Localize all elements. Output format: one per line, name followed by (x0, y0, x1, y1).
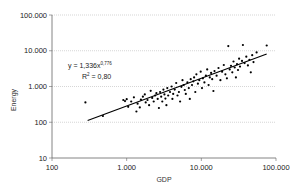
data-point (84, 101, 86, 103)
data-point (158, 107, 160, 109)
y-tick-label: 100.000 (20, 11, 47, 20)
data-point (256, 51, 258, 53)
data-point (130, 100, 132, 102)
data-point (266, 44, 268, 46)
data-point (144, 93, 146, 95)
data-point (171, 85, 173, 87)
data-point (185, 93, 187, 95)
data-point (160, 96, 162, 98)
data-point (232, 60, 234, 62)
data-point (245, 56, 247, 58)
data-point (239, 66, 241, 68)
equation-label: y = 1,336x0,776 (68, 61, 112, 70)
data-point (212, 90, 214, 92)
data-point (251, 54, 253, 56)
y-tick-labels: 101001.00010.000100.000 (20, 11, 47, 163)
x-tick-label: 100 (46, 163, 59, 172)
data-point (226, 77, 228, 79)
data-point (208, 84, 210, 86)
data-point (150, 90, 152, 92)
trendline (88, 54, 267, 121)
data-point (211, 78, 213, 80)
data-point (224, 73, 226, 75)
data-point (162, 89, 164, 91)
data-point (193, 76, 195, 78)
data-point (194, 91, 196, 93)
gridlines (49, 15, 276, 161)
x-axis-title: GDP (156, 176, 172, 183)
data-point (161, 100, 163, 102)
data-point (137, 103, 139, 105)
data-point (176, 94, 178, 96)
data-point (247, 64, 249, 66)
data-point (148, 104, 150, 106)
y-tick-label: 10.000 (24, 46, 47, 55)
data-point (252, 61, 254, 63)
data-point (171, 98, 173, 100)
scatter-chart: 101001.00010.000100.000 1001.00010.00010… (0, 0, 302, 192)
data-point (190, 78, 192, 80)
data-point (227, 45, 229, 47)
y-tick-label: 1.000 (28, 82, 47, 91)
data-point (195, 73, 197, 75)
data-point (155, 92, 157, 94)
data-point (210, 72, 212, 74)
data-point (200, 71, 202, 73)
data-point (146, 99, 148, 101)
data-point (179, 100, 181, 102)
data-point (145, 101, 147, 103)
data-point (209, 76, 211, 78)
data-point (172, 93, 174, 95)
data-point (181, 79, 183, 81)
data-point (213, 70, 215, 72)
data-point (216, 75, 218, 77)
data-point (163, 93, 165, 95)
x-tick-label: 1.000 (117, 163, 136, 172)
x-tick-label: 10.000 (190, 163, 213, 172)
data-point (238, 58, 240, 60)
data-point (219, 79, 221, 81)
data-point (166, 87, 168, 89)
data-point (188, 87, 190, 89)
data-point (197, 83, 199, 85)
data-point (142, 96, 144, 98)
data-point (203, 81, 205, 83)
data-point (191, 84, 193, 86)
data-point (157, 98, 159, 100)
r2-label: R2 = 0,80 (82, 72, 111, 80)
data-point (135, 110, 137, 112)
data-point (164, 98, 166, 100)
data-point (178, 91, 180, 93)
data-point (167, 94, 169, 96)
y-tick-label: 10 (39, 154, 47, 163)
data-point (126, 98, 128, 100)
data-point (217, 67, 219, 69)
x-tick-label: 100.000 (262, 163, 289, 172)
data-point (223, 64, 225, 66)
data-point (169, 91, 171, 93)
data-point (235, 76, 237, 78)
data-point (153, 100, 155, 102)
data-point (189, 98, 191, 100)
x-tick-labels: 1001.00010.000100.000 (46, 163, 290, 172)
data-point (201, 87, 203, 89)
data-points (84, 44, 268, 117)
data-point (133, 96, 135, 98)
data-point (124, 100, 126, 102)
data-point (231, 71, 233, 73)
data-point (184, 89, 186, 91)
data-point (165, 104, 167, 106)
data-point (250, 71, 252, 73)
data-point (139, 106, 141, 108)
data-point (241, 60, 243, 62)
y-axis-title: Energy (10, 88, 18, 111)
data-point (237, 69, 239, 71)
data-point (206, 68, 208, 70)
data-point (242, 44, 244, 46)
y-tick-label: 100 (34, 118, 47, 127)
data-point (175, 82, 177, 84)
